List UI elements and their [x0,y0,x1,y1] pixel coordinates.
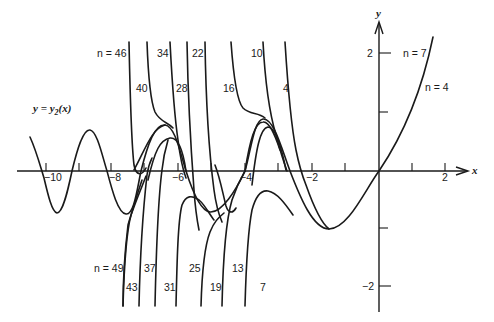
series-label-n43: 43 [126,281,138,293]
y-tick-label: 2 [367,47,373,59]
y-axis-label: y [374,7,381,19]
series-label-n25: 25 [189,262,201,274]
series-label-n19: 19 [210,281,222,293]
series-label-n40: 40 [136,82,148,94]
series-label-n22: 22 [192,47,204,59]
series-label-n34: 34 [157,47,169,59]
x-tick-label: −6 [172,171,184,183]
curve-n46 [129,42,146,174]
x-tick-label: −10 [44,171,62,183]
series-label-n16: 16 [223,82,235,94]
x-axis-label: x [471,164,478,176]
series-label-n10: 10 [251,47,263,59]
curve-n37 [139,158,152,306]
series-label-n7: 7 [260,281,266,293]
x-tick-label: −8 [109,171,121,183]
curve-n25 [176,197,214,306]
series-label-n4: 4 [283,82,289,94]
main-curve-label: y = y2(x) [31,102,71,117]
series-label-n13: 13 [232,262,244,274]
curve-branch [252,127,286,185]
y-tick-label: −2 [362,280,374,292]
series-label-n46: n = 46 [97,47,127,59]
series-label-n31: 31 [164,281,176,293]
series-label-n37: 37 [144,262,156,274]
x-tick-label: −2 [306,171,318,183]
curve-n7 [245,191,293,306]
x-tick-label: 2 [442,171,448,183]
series-label-n28: 28 [176,82,188,94]
series-label-right-n4: n = 4 [425,81,449,93]
series-label-right-n7: n = 7 [403,47,427,59]
curve-n4 [285,42,329,229]
series-plot: −10 −8 −6 −4 −2 2 2 −2 x y y = y2(x) n =… [0,0,494,322]
curve-n28 [187,42,199,230]
series-label-n49: n = 49 [94,262,124,274]
curve-n22 [205,42,222,222]
curve-branch [215,165,236,212]
